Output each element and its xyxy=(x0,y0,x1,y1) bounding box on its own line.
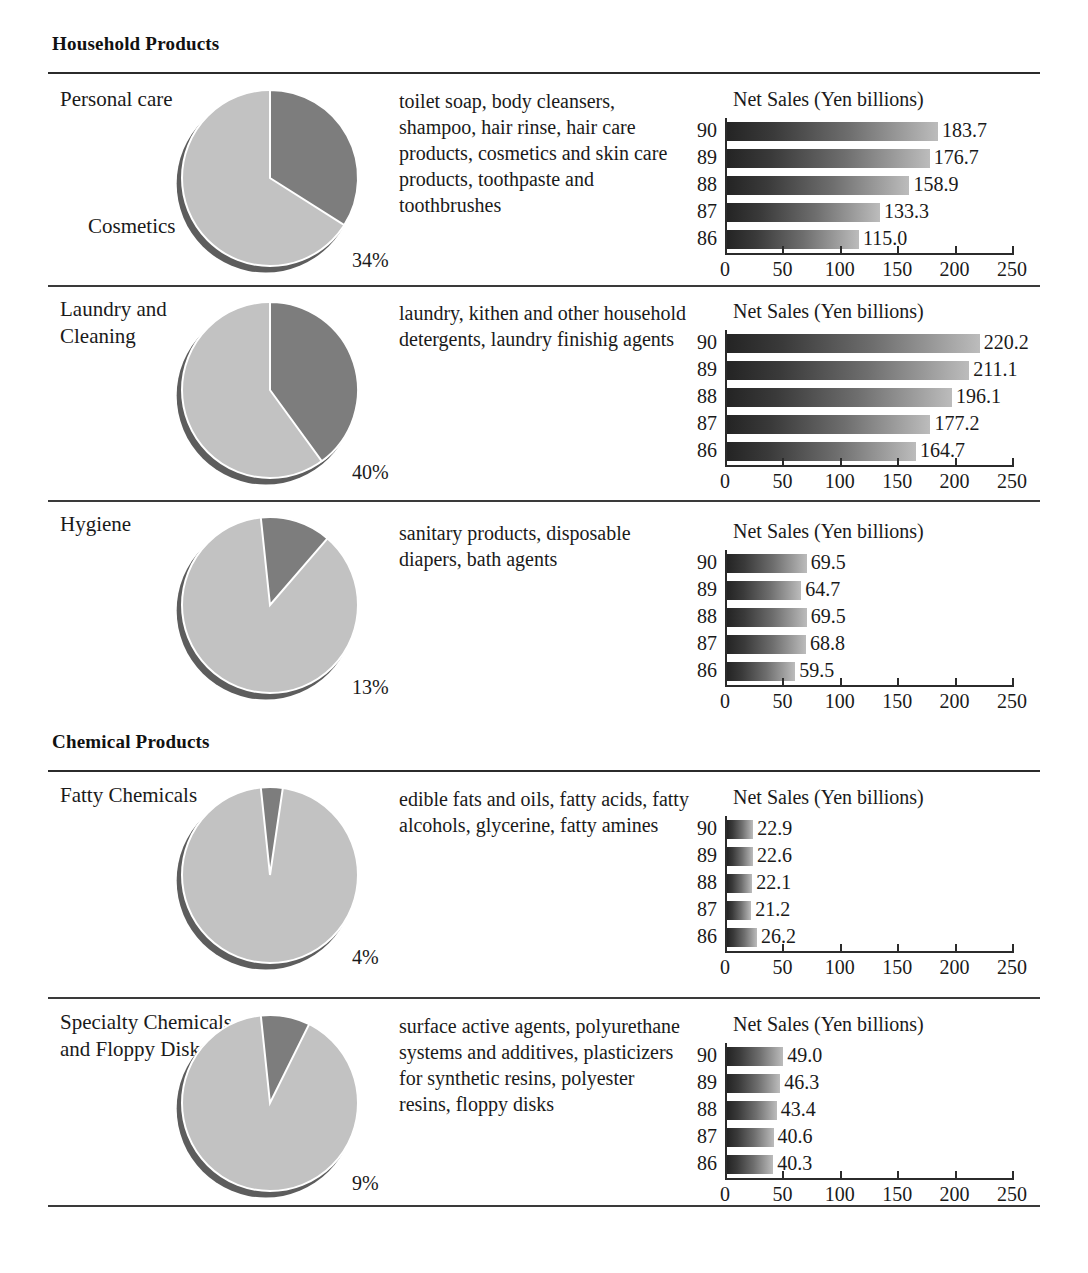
bar xyxy=(727,662,795,681)
bar-year-label: 88 xyxy=(687,871,717,894)
x-axis-tick xyxy=(840,944,842,951)
bar-value-label: 211.1 xyxy=(973,358,1017,381)
x-axis-tick xyxy=(897,246,899,253)
bar-year-label: 87 xyxy=(687,200,717,223)
bar-year-label: 88 xyxy=(687,1098,717,1121)
bar xyxy=(727,554,807,573)
bar-year-label: 88 xyxy=(687,385,717,408)
x-axis-tick xyxy=(840,458,842,465)
chart-x-axis xyxy=(725,951,1014,953)
x-axis-tick-label: 0 xyxy=(702,690,748,713)
bar-year-label: 89 xyxy=(687,578,717,601)
row-separator-rule xyxy=(48,285,1040,287)
bar-value-label: 164.7 xyxy=(920,439,965,462)
bar-year-label: 90 xyxy=(687,817,717,840)
bar-value-label: 69.5 xyxy=(811,605,846,628)
x-axis-tick xyxy=(782,246,784,253)
bar xyxy=(727,334,980,353)
bar xyxy=(727,388,952,407)
chart-title: Net Sales (Yen billions) xyxy=(733,1013,924,1036)
x-axis-tick xyxy=(840,678,842,685)
group-heading: Chemical Products xyxy=(52,731,210,753)
bar xyxy=(727,928,757,947)
bar-year-label: 87 xyxy=(687,1125,717,1148)
x-axis-tick-label: 100 xyxy=(817,258,863,281)
bar-year-label: 89 xyxy=(687,146,717,169)
x-axis-tick xyxy=(840,246,842,253)
bar-value-label: 46.3 xyxy=(784,1071,819,1094)
chart-x-axis xyxy=(725,685,1014,687)
x-axis-tick xyxy=(1012,458,1014,465)
bar-year-label: 86 xyxy=(687,1152,717,1175)
bar-year-label: 88 xyxy=(687,605,717,628)
x-axis-tick xyxy=(725,246,727,253)
x-axis-tick xyxy=(725,1171,727,1178)
x-axis-tick-label: 100 xyxy=(817,690,863,713)
bar-chart: Net Sales (Yen billions)9049.08946.38843… xyxy=(0,1013,1088,1188)
section-rule xyxy=(48,72,1040,74)
x-axis-tick-label: 250 xyxy=(989,690,1035,713)
bar xyxy=(727,149,930,168)
x-axis-tick-label: 50 xyxy=(759,470,805,493)
row-separator-rule xyxy=(48,997,1040,999)
report-page: Household ProductsPersonal careCosmetics… xyxy=(0,0,1088,1273)
bar-value-label: 69.5 xyxy=(811,551,846,574)
closing-rule xyxy=(48,1205,1040,1207)
bar xyxy=(727,847,753,866)
x-axis-tick xyxy=(725,678,727,685)
x-axis-tick xyxy=(897,458,899,465)
x-axis-tick-label: 150 xyxy=(874,258,920,281)
bar-chart: Net Sales (Yen billions)90220.289211.188… xyxy=(0,300,1088,475)
bar-chart: Net Sales (Yen billions)90183.789176.788… xyxy=(0,88,1088,263)
x-axis-tick xyxy=(725,944,727,951)
bar-value-label: 115.0 xyxy=(863,227,907,250)
bar xyxy=(727,1101,777,1120)
x-axis-tick xyxy=(955,246,957,253)
bar-chart: Net Sales (Yen billions)9022.98922.68822… xyxy=(0,786,1088,961)
x-axis-tick-label: 50 xyxy=(759,258,805,281)
bar-value-label: 220.2 xyxy=(984,331,1029,354)
bar-value-label: 196.1 xyxy=(956,385,1001,408)
x-axis-tick xyxy=(897,944,899,951)
bar-year-label: 89 xyxy=(687,358,717,381)
x-axis-tick-label: 200 xyxy=(932,470,978,493)
x-axis-tick-label: 100 xyxy=(817,1183,863,1206)
bar xyxy=(727,442,916,461)
bar xyxy=(727,874,752,893)
chart-title: Net Sales (Yen billions) xyxy=(733,300,924,323)
bar-year-label: 90 xyxy=(687,119,717,142)
x-axis-tick-label: 200 xyxy=(932,1183,978,1206)
bar-year-label: 87 xyxy=(687,632,717,655)
bar-value-label: 59.5 xyxy=(799,659,834,682)
x-axis-tick-label: 250 xyxy=(989,258,1035,281)
bar-value-label: 43.4 xyxy=(781,1098,816,1121)
x-axis-tick xyxy=(897,678,899,685)
x-axis-tick xyxy=(1012,944,1014,951)
bar xyxy=(727,1128,774,1147)
bar-year-label: 86 xyxy=(687,659,717,682)
x-axis-tick-label: 150 xyxy=(874,690,920,713)
x-axis-tick xyxy=(782,1171,784,1178)
bar-year-label: 88 xyxy=(687,173,717,196)
group-heading: Household Products xyxy=(52,33,219,55)
bar xyxy=(727,1155,773,1174)
x-axis-tick xyxy=(1012,678,1014,685)
x-axis-tick-label: 0 xyxy=(702,258,748,281)
bar-year-label: 89 xyxy=(687,844,717,867)
x-axis-tick-label: 250 xyxy=(989,470,1035,493)
x-axis-tick xyxy=(1012,1171,1014,1178)
bar xyxy=(727,635,806,654)
x-axis-tick-label: 50 xyxy=(759,956,805,979)
bar-value-label: 22.9 xyxy=(757,817,792,840)
bar xyxy=(727,820,753,839)
section-rule xyxy=(48,770,1040,772)
bar-value-label: 177.2 xyxy=(934,412,979,435)
row-separator-rule xyxy=(48,500,1040,502)
bar-year-label: 90 xyxy=(687,551,717,574)
bar-year-label: 90 xyxy=(687,1044,717,1067)
chart-title: Net Sales (Yen billions) xyxy=(733,786,924,809)
x-axis-tick-label: 100 xyxy=(817,956,863,979)
bar-chart: Net Sales (Yen billions)9069.58964.78869… xyxy=(0,520,1088,695)
bar-value-label: 183.7 xyxy=(942,119,987,142)
x-axis-tick xyxy=(955,1171,957,1178)
